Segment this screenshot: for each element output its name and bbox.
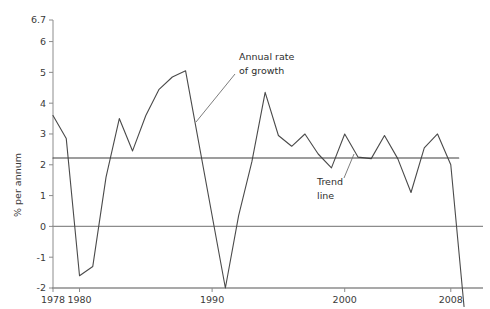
y-axis-title: % per annum (12, 153, 23, 217)
x-axis-tick-label: 1990 (200, 294, 224, 305)
reference-lines-group (52, 226, 483, 288)
x-axis-tick-label: 1978 (41, 294, 65, 305)
y-axis-tick-label: 4 (40, 98, 46, 109)
x-axis-tick-label: 2000 (333, 294, 357, 305)
y-axis-tick-label: 1 (40, 190, 46, 201)
annual-rate-of-growth-label: Annual rateof growth (239, 51, 294, 76)
y-axis-tick-label: 3 (40, 128, 46, 139)
growth-rate-chart: -2-101234566.7 19781980199020002008 Annu… (0, 0, 490, 309)
annotation-text-line: Annual rate (239, 51, 294, 62)
annotation-text-line: line (317, 190, 334, 201)
y-axis-tick-label: -1 (37, 252, 46, 263)
annotation-text-line: Trend (316, 176, 343, 187)
y-axis-tick-label: 6 (40, 36, 46, 47)
y-axis-tick-label: 0 (40, 221, 46, 232)
x-axis-tick-label: 2008 (439, 294, 463, 305)
annotation-leader-line (196, 74, 235, 122)
x-axis-tick-label: 1980 (67, 294, 91, 305)
y-axis-tick-label: 5 (40, 67, 46, 78)
chart-canvas: -2-101234566.7 19781980199020002008 Annu… (0, 0, 490, 309)
y-axis-tick-label: -2 (37, 282, 46, 293)
series-line (53, 71, 464, 307)
x-axis: 19781980199020002008 (41, 288, 463, 305)
annotation-text-line: of growth (239, 65, 284, 76)
y-axis-tick-label: 2 (40, 159, 46, 170)
y-axis: -2-101234566.7 (31, 14, 53, 293)
trend-line-label: Trendline (316, 176, 343, 201)
series-group (53, 71, 464, 307)
y-axis-tick-label: 6.7 (31, 14, 46, 25)
